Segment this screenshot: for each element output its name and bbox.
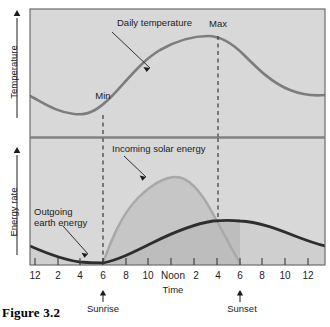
outgoing-earth-energy-label-line1: Outgoing [34,206,73,217]
figure-3-2: 12 2 4 6 8 10 Noon 2 4 6 8 10 12 Time Su… [0,0,330,327]
x-tick-label: 6 [237,270,243,281]
temperature-panel-background [30,9,325,137]
temperature-axis-title: Temperature [8,45,19,98]
x-tick-label: 10 [279,270,291,281]
energy-axis-arrow-icon [14,147,21,153]
daily-temperature-label: Daily temperature [117,17,192,28]
energy-axis-title: Energy rate [8,187,19,236]
temperature-axis-arrow-icon [14,10,21,16]
x-tick-label: 8 [123,270,129,281]
x-tick-label: 4 [215,270,221,281]
sunset-label: Sunset [227,303,257,314]
x-axis-title: Time [163,284,184,295]
x-tick-label: 12 [29,270,41,281]
x-tick-label: 2 [55,270,61,281]
figure-canvas: 12 2 4 6 8 10 Noon 2 4 6 8 10 12 Time Su… [0,0,330,327]
figure-caption: Figure 3.2 [2,305,60,321]
x-axis-tick-labels: 12 2 4 6 8 10 Noon 2 4 6 8 10 12 [29,270,314,281]
min-label: Min [95,90,110,101]
x-tick-label: 10 [142,270,154,281]
outgoing-earth-energy-label-line2: earth energy [34,217,88,228]
x-tick-label: 2 [193,270,199,281]
x-tick-label-noon: Noon [161,270,185,281]
x-tick-label: 8 [259,270,265,281]
sunrise-label: Sunrise [87,303,119,314]
x-tick-label: 6 [100,270,106,281]
x-tick-label: 12 [302,270,314,281]
x-tick-label: 4 [77,270,83,281]
sunrise-arrow-icon [100,290,106,296]
max-label: Max [209,18,227,29]
incoming-solar-energy-label: Incoming solar energy [112,143,206,154]
sunset-arrow-icon [237,290,243,296]
